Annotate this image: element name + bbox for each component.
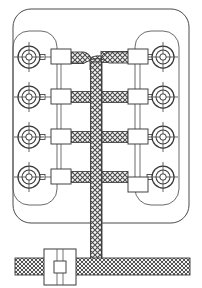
branch-cable-R2 xyxy=(101,92,128,103)
branch-cable-R4 xyxy=(101,172,128,183)
connector-CL4[interactable] xyxy=(51,169,71,184)
branch-cable-L2 xyxy=(71,92,91,103)
connector-CL1[interactable] xyxy=(51,49,71,64)
connector-CR2[interactable] xyxy=(128,89,148,104)
branch-cable-L4 xyxy=(71,172,91,183)
trunk-body xyxy=(91,62,102,266)
main-bus-cable xyxy=(15,258,190,275)
connector-CR3[interactable] xyxy=(128,129,148,144)
connector-CR1[interactable] xyxy=(128,49,148,64)
connector-CL2[interactable] xyxy=(51,89,71,104)
connector-CL3[interactable] xyxy=(51,129,71,144)
harness-schematic-svg xyxy=(0,0,202,288)
inline-junction-box[interactable] xyxy=(44,249,76,285)
diagram-canvas xyxy=(0,0,202,288)
branch-cable-L3 xyxy=(71,132,91,143)
connector-CR4[interactable] xyxy=(128,177,148,192)
branch-cable-R3 xyxy=(101,132,128,143)
